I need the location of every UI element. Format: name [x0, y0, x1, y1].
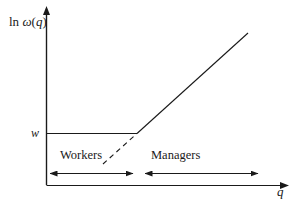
- region-label-workers: Workers: [60, 149, 102, 162]
- region-label-managers: Managers: [151, 149, 200, 162]
- y-axis-label: ln ω(q): [9, 15, 47, 28]
- wage-dashed-extension: [103, 134, 137, 165]
- y-axis-label-symbol: ω: [22, 14, 31, 29]
- x-axis-label: q: [277, 185, 284, 198]
- y-tick-label-w: w: [31, 127, 39, 139]
- wage-schedule-figure: ln ω(q) q w Workers Managers: [0, 0, 299, 205]
- wage-rising-segment: [137, 33, 248, 134]
- y-axis-label-prefix: ln: [9, 14, 22, 29]
- figure-canvas: [0, 0, 299, 205]
- y-axis-label-paren-close: ): [42, 14, 46, 29]
